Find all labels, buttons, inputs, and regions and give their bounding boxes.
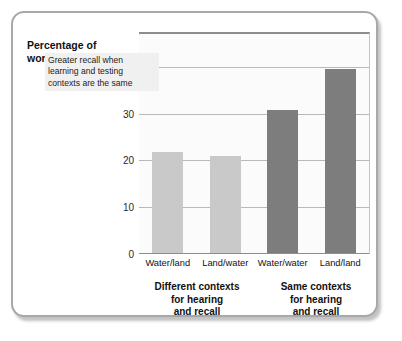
group-label-different-line-1: Different contexts	[139, 281, 255, 294]
x-tick-label-water-water: Water/water	[254, 258, 312, 268]
y-tick-label-10: 10	[123, 202, 134, 213]
y-tick-label-20: 20	[123, 155, 134, 166]
annotation-line-1: Greater recall when	[48, 55, 156, 66]
bar-water-water	[267, 110, 298, 253]
y-tick-label-30: 30	[123, 108, 134, 119]
gridline-40	[139, 67, 369, 68]
bar-land-water	[210, 156, 241, 253]
group-label-different-line-2: for hearing	[139, 294, 255, 307]
x-tick-label-land-water: Land/water	[197, 258, 255, 268]
annotation-line-3: contexts are the same	[48, 78, 156, 89]
annotation-line-2: learning and testing	[48, 66, 156, 77]
group-label-same-line-2: for hearing	[259, 294, 373, 307]
group-label-different-contexts: Different contexts for hearing and recal…	[139, 281, 255, 319]
bar-land-land	[325, 69, 356, 253]
x-tick-label-land-land: Land/land	[312, 258, 370, 268]
figure-card: Percentage of words recalled 010203040% …	[11, 11, 378, 317]
group-label-same-contexts: Same contexts for hearing and recall	[259, 281, 373, 319]
x-tick-label-water-land: Water/land	[139, 258, 197, 268]
annotation-greater-recall: Greater recall when learning and testing…	[45, 53, 159, 91]
group-label-same-line-3: and recall	[259, 306, 373, 319]
plot-area: 010203040%	[139, 32, 370, 254]
y-tick-label-0: 0	[128, 249, 134, 260]
x-axis-baseline	[139, 253, 369, 254]
y-axis-title-line-1: Percentage of	[27, 39, 132, 52]
group-label-different-line-3: and recall	[139, 306, 255, 319]
bar-water-land	[152, 152, 183, 253]
group-label-same-line-1: Same contexts	[259, 281, 373, 294]
